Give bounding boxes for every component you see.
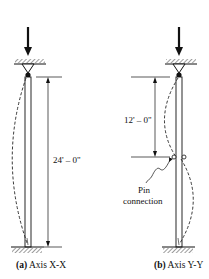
top-pin-support-icon xyxy=(165,59,197,79)
pin-connection-leader xyxy=(146,160,170,183)
column-buckling-diagram xyxy=(0,0,209,279)
column xyxy=(25,77,31,247)
panel-a-axis-x xyxy=(11,27,62,253)
pin-annotation-line2: connection xyxy=(123,197,163,206)
caption-b-tag: (b) xyxy=(154,260,166,270)
caption-a: (a) Axis X-X xyxy=(16,260,66,270)
caption-a-tag: (a) xyxy=(16,260,27,270)
top-pin-support-icon xyxy=(14,59,46,79)
column xyxy=(176,77,182,247)
panel-b-axis-y xyxy=(131,27,197,253)
load-arrow-icon xyxy=(175,27,183,56)
caption-a-text: Axis X-X xyxy=(29,260,66,270)
caption-b: (b) Axis Y-Y xyxy=(154,260,203,270)
dimension-label-24ft: 24' – 0" xyxy=(53,156,81,165)
load-arrow-icon xyxy=(24,27,32,56)
caption-b-text: Axis Y-Y xyxy=(167,260,203,270)
pin-annotation-line1: Pin xyxy=(138,186,150,195)
dimension-label-12ft: 12' – 0" xyxy=(124,116,152,125)
